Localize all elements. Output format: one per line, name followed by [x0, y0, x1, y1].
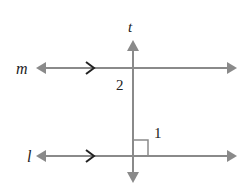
label-m: m [16, 60, 28, 77]
right-angle-marker-icon [133, 140, 148, 156]
arrow-left-icon [36, 62, 46, 74]
parallel-lines-diagram: t m l 2 1 [0, 0, 250, 188]
label-l: l [27, 148, 32, 165]
arrow-left-icon [36, 150, 46, 162]
arrow-up-icon [127, 40, 139, 51]
arrow-right-icon [227, 150, 237, 162]
line-l [36, 150, 237, 162]
label-t: t [128, 19, 133, 35]
line-m [36, 62, 237, 74]
arrow-down-icon [127, 172, 139, 183]
label-angle-2: 2 [116, 77, 124, 93]
arrow-right-icon [227, 62, 237, 74]
label-angle-1: 1 [154, 125, 162, 141]
line-t [127, 40, 139, 183]
